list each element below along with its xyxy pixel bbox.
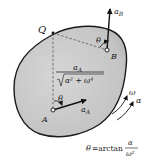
rigid-body-acceleration-diagram: Q B aB θ aA α² + ω⁴ A aA θ ω α θ =arctan… <box>0 0 154 166</box>
label-theta-B: θ <box>96 36 101 45</box>
label-theta-A: θ <box>58 94 63 103</box>
label-B: B <box>110 52 117 61</box>
point-Q-dot <box>52 32 55 35</box>
label-A: A <box>41 115 48 124</box>
label-aB: aB <box>114 7 124 17</box>
distance-denominator: α² + ω⁴ <box>65 76 93 85</box>
label-Q: Q <box>38 24 46 35</box>
theta-equation-lhs: θ <box>86 144 91 153</box>
theta-equation-numerator: α <box>128 139 133 147</box>
label-alpha: α <box>136 96 142 105</box>
label-omega: ω <box>129 88 136 97</box>
point-B-circle <box>105 48 109 52</box>
theta-equation-denominator: ω² <box>126 150 135 158</box>
theta-equation-func: =arctan <box>92 144 123 153</box>
point-A-circle <box>51 108 55 112</box>
alpha-rotation-arrow <box>117 102 133 120</box>
